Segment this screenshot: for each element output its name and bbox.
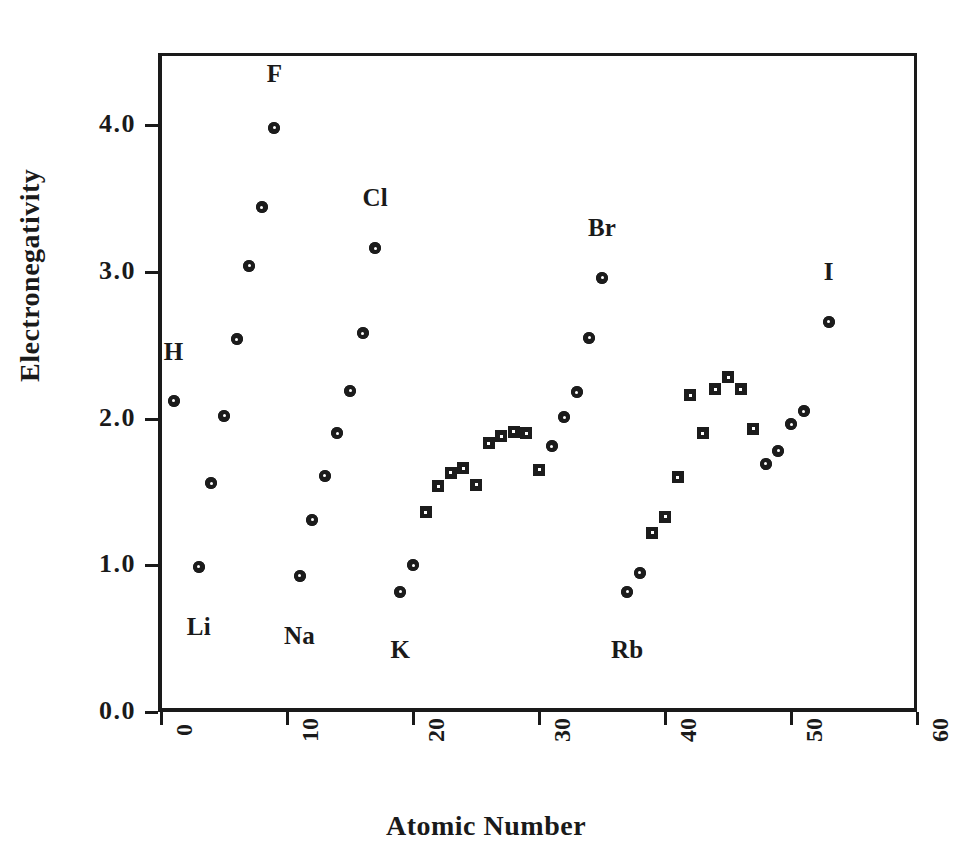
y-tick-label: 1.0 (0, 550, 136, 580)
point-label: Br (588, 214, 616, 242)
x-tick-mark (538, 712, 541, 725)
data-point (634, 567, 646, 579)
data-point (294, 570, 306, 582)
data-point (533, 464, 545, 476)
data-point (747, 423, 759, 435)
data-point (394, 586, 406, 598)
x-tick-label: 20 (423, 718, 450, 742)
data-point (243, 260, 255, 272)
data-point (306, 514, 318, 526)
data-point (735, 383, 747, 395)
point-label: Na (284, 622, 315, 650)
data-point (168, 395, 180, 407)
data-point (508, 426, 520, 438)
y-tick-mark (145, 271, 158, 274)
data-point (357, 327, 369, 339)
data-point (495, 430, 507, 442)
data-point (432, 480, 444, 492)
data-point (205, 477, 217, 489)
point-label: Cl (362, 184, 387, 212)
data-point (672, 471, 684, 483)
data-point (684, 389, 696, 401)
x-tick-mark (160, 712, 163, 725)
data-point (231, 333, 243, 345)
x-tick-mark (790, 712, 793, 725)
data-point (319, 470, 331, 482)
data-point (483, 437, 495, 449)
x-tick-mark (412, 712, 415, 725)
y-tick-label: 4.0 (0, 109, 136, 139)
data-point (407, 559, 419, 571)
data-point (823, 316, 835, 328)
y-tick-label: 2.0 (0, 403, 136, 433)
data-point (546, 440, 558, 452)
data-point (697, 427, 709, 439)
x-tick-label: 60 (927, 718, 954, 742)
data-point (331, 427, 343, 439)
plot-area: HLiFNaClKBrRbI (158, 53, 917, 712)
y-axis-label: Electronegativity (14, 169, 46, 382)
y-tick-label: 0.0 (0, 696, 136, 726)
data-point (772, 445, 784, 457)
data-point (457, 462, 469, 474)
y-tick-mark (145, 564, 158, 567)
data-point (571, 386, 583, 398)
data-point (722, 371, 734, 383)
data-point (621, 586, 633, 598)
point-label: F (267, 60, 282, 88)
x-tick-label: 30 (549, 718, 576, 742)
data-point (193, 561, 205, 573)
data-point (583, 332, 595, 344)
data-point (470, 479, 482, 491)
data-point (344, 385, 356, 397)
data-point (256, 201, 268, 213)
x-tick-label: 40 (675, 718, 702, 742)
data-point (596, 272, 608, 284)
x-tick-mark (286, 712, 289, 725)
x-tick-label: 10 (297, 718, 324, 742)
data-point (445, 467, 457, 479)
data-point (646, 527, 658, 539)
data-point (268, 122, 280, 134)
y-tick-mark (145, 124, 158, 127)
point-label: K (391, 636, 411, 664)
x-tick-label: 0 (171, 724, 198, 736)
data-point (760, 458, 772, 470)
data-point (369, 242, 381, 254)
data-point (520, 427, 532, 439)
x-tick-mark (664, 712, 667, 725)
x-tick-label: 50 (801, 718, 828, 742)
data-point (558, 411, 570, 423)
point-label: Rb (611, 636, 643, 664)
x-tick-mark (916, 712, 919, 725)
point-label: I (824, 258, 834, 286)
data-point (709, 383, 721, 395)
x-axis-label: Atomic Number (0, 810, 972, 842)
point-label: H (164, 338, 184, 366)
data-point (218, 410, 230, 422)
y-tick-mark (145, 418, 158, 421)
data-point (659, 511, 671, 523)
data-point (420, 506, 432, 518)
electronegativity-scatter-figure: HLiFNaClKBrRbI 0.01.02.03.04.0 010203040… (0, 0, 972, 859)
point-label: Li (187, 613, 211, 641)
y-tick-mark (145, 711, 158, 714)
data-point (785, 418, 797, 430)
data-point (798, 405, 810, 417)
